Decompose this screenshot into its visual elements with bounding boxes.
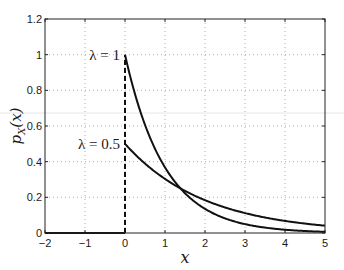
y-axis-label-part: p [7,134,25,144]
y-axis-label: pX(x) [7,107,27,144]
annotation-1: λ = 0.5 [78,136,120,152]
x-tick-label: 1 [162,237,168,249]
y-axis-label-part: (x) [7,107,25,127]
y-tick-label: 0.8 [27,84,42,96]
x-tick-label: 3 [242,237,248,249]
x-tick-label: 4 [282,237,288,249]
series-line-lambda-1 [125,55,325,232]
x-tick-label: 2 [202,237,208,249]
y-tick-label: 0.4 [27,156,42,168]
y-tick-label: 0.6 [27,120,42,132]
x-tick-label: −1 [79,237,92,249]
x-tick-label: 0 [122,237,128,249]
annotation-0: λ = 1 [89,47,120,63]
exponential-pdf-chart: −2−101234500.20.40.60.811.2λ = 1λ = 0.5x… [0,0,344,270]
y-tick-label: 1.2 [27,13,42,25]
grid [45,19,325,233]
x-axis-label: x [180,248,189,267]
y-tick-label: 0.2 [27,191,42,203]
series-line-lambda-0-5 [125,144,325,226]
y-tick-label: 1 [36,49,42,61]
y-tick-label: 0 [36,227,42,239]
x-tick-label: 5 [322,237,328,249]
